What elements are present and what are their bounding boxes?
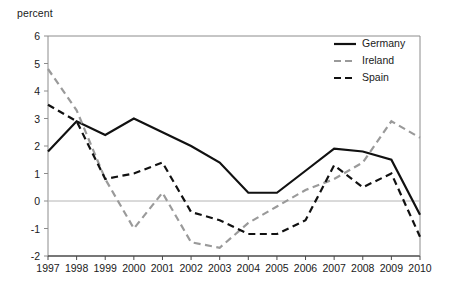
legend-item-germany: Germany [334,35,428,52]
y-tick-label: 0 [14,195,40,207]
y-tick-label: -1 [14,223,40,235]
series-line-spain [48,105,420,237]
y-tick-label: 4 [14,85,40,97]
x-tick-label: 2010 [400,262,440,274]
legend-item-ireland: Ireland [334,52,428,69]
legend-swatch-ireland [334,56,356,66]
y-tick-label: 3 [14,113,40,125]
line-chart: percent 6543210-1-2 19971998199920002001… [0,0,449,289]
legend-label-germany: Germany [362,38,405,49]
y-tick-label: 1 [14,168,40,180]
legend-label-spain: Spain [362,72,389,83]
y-tick-label: 5 [14,58,40,70]
y-tick-label: 2 [14,140,40,152]
legend-item-spain: Spain [334,69,428,86]
legend-label-ireland: Ireland [362,55,394,66]
series-line-germany [48,119,420,215]
chart-legend: Germany Ireland Spain [334,35,428,88]
legend-swatch-spain [334,73,356,83]
y-tick-label: -2 [14,250,40,262]
y-tick-label: 6 [14,30,40,42]
data-series [48,69,420,248]
legend-swatch-germany [334,39,356,49]
series-line-ireland [48,69,420,248]
